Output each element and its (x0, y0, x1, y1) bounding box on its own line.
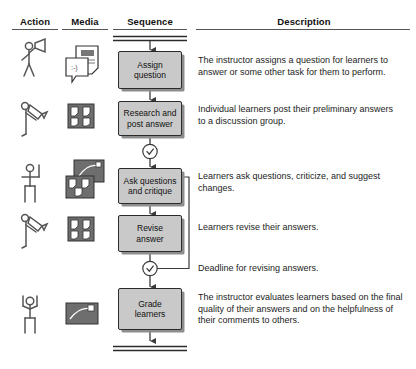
sequence-step-5-line2: learners (135, 309, 166, 319)
description-step-4: Learners revise their answers. (198, 222, 403, 234)
stick-figure-writing-icon-a (22, 103, 47, 136)
clock-timer-icon-1 (143, 144, 157, 158)
sequence-step-1-line1: Assign (137, 60, 163, 70)
sequence-step-2[interactable]: Research and post answer (118, 101, 182, 136)
activity-diagram: Action Media Sequence Description (0, 0, 416, 369)
clock-timer-icon-2 (143, 261, 157, 275)
end-marker-icon (113, 347, 187, 351)
stick-figure-hand-raised-icon (22, 164, 39, 202)
note-grid-four-tiles-icon-b (68, 217, 94, 241)
sequence-step-4-line2: answer (136, 234, 163, 244)
sequence-step-5[interactable]: Grade learners (118, 288, 182, 330)
stacked-note-tiles-icon (66, 160, 104, 198)
description-step-5: The instructor evaluates learners based … (198, 292, 403, 327)
sequence-step-1-line2: question (134, 70, 166, 80)
sequence-step-3-line1: Ask questions (124, 176, 177, 186)
sequence-step-4[interactable]: Revise answer (118, 215, 182, 252)
sequence-step-1[interactable]: Assign question (118, 51, 182, 89)
sequence-step-3-line2: and critique (128, 186, 172, 196)
description-step-3: Learners ask questions, criticize, and s… (198, 171, 403, 194)
sequence-step-5-line1: Grade (138, 299, 162, 309)
single-tile-with-pen-icon (66, 303, 98, 324)
stick-figure-arms-raised-icon (23, 296, 37, 333)
description-step-2: Individual learners post their prelimina… (198, 104, 403, 127)
stick-figure-with-megaphone-icon (22, 39, 45, 76)
start-marker-icon (113, 37, 187, 41)
stick-figure-writing-icon-b (22, 215, 47, 248)
note-grid-four-tiles-icon-a (68, 104, 94, 128)
svg-text::-): :-) (71, 64, 78, 72)
description-step-1: The instructor assigns a question for le… (198, 55, 403, 78)
timer-note-deadline: Deadline for revising answers. (198, 263, 403, 275)
sequence-step-3[interactable]: Ask questions and critique (118, 168, 182, 204)
sequence-step-2-line2: post answer (127, 119, 173, 129)
sequence-step-2-line1: Research and (124, 108, 177, 118)
document-with-comment-note-icon: :-) (66, 46, 98, 82)
sequence-step-4-line1: Revise (137, 223, 163, 233)
